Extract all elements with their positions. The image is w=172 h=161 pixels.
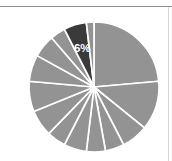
- pie-slice[interactable]: [94, 22, 159, 87]
- pie-label-group: 6%: [74, 42, 91, 54]
- pie-slice-label: 6%: [74, 42, 91, 54]
- pie-chart-figure: 6%: [0, 0, 172, 161]
- pie-slice-group: [29, 22, 159, 152]
- pie-chart-svg: 6%: [0, 0, 172, 161]
